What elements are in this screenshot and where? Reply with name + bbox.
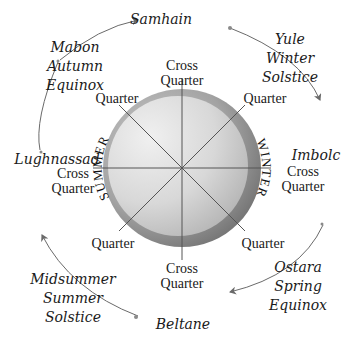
marker-top-line2: Quarter xyxy=(152,73,212,88)
inner-disk xyxy=(108,96,248,236)
yule-line2: Winter xyxy=(255,49,325,68)
festival-beltane: Beltane xyxy=(148,317,218,332)
marker-bottom-cross-quarter: Cross Quarter xyxy=(152,261,212,291)
yule-line3: Solstice xyxy=(255,68,325,87)
marker-top-right-quarter: Quarter xyxy=(230,91,300,106)
marker-bottom-right-line1: Quarter xyxy=(228,236,298,251)
festival-mabon: Mabon Autumn Equinox xyxy=(30,38,120,95)
festival-ostara: Ostara Spring Equinox xyxy=(258,258,338,315)
festival-samhain: Samhain xyxy=(121,12,201,27)
marker-top-line1: Cross xyxy=(152,58,212,73)
yule-name: Yule xyxy=(255,30,325,49)
marker-bottom-right-quarter: Quarter xyxy=(228,236,298,251)
marker-top-cross-quarter: Cross Quarter xyxy=(152,58,212,88)
marker-top-left-line1: Quarter xyxy=(82,91,152,106)
ostara-line2: Spring xyxy=(258,277,338,296)
ostara-name: Ostara xyxy=(258,258,338,277)
marker-bottom-line2: Quarter xyxy=(152,276,212,291)
mabon-name: Mabon xyxy=(30,38,120,57)
lughnassad-name: Lughnassad xyxy=(12,152,102,167)
marker-left-line1: Cross xyxy=(40,166,106,181)
midsummer-name: Midsummer xyxy=(18,270,128,289)
marker-top-left-quarter: Quarter xyxy=(82,91,152,106)
festival-imbolc: Imbolc xyxy=(286,148,346,163)
imbolc-name: Imbolc xyxy=(286,148,346,163)
festival-yule: Yule Winter Solstice xyxy=(255,30,325,87)
marker-bottom-left-line1: Quarter xyxy=(78,236,148,251)
midsummer-line2: Summer xyxy=(18,289,128,308)
marker-bottom-left-quarter: Quarter xyxy=(78,236,148,251)
midsummer-line3: Solstice xyxy=(18,308,128,327)
festival-midsummer: Midsummer Summer Solstice xyxy=(18,270,128,327)
mabon-line2: Autumn xyxy=(30,57,120,76)
wheel-of-year-diagram: SUMMER WINTER Samhain Yule Winter Solsti… xyxy=(0,0,346,343)
marker-left-line2: Quarter xyxy=(40,181,106,196)
marker-right-line1: Cross xyxy=(272,164,334,179)
ostara-line3: Equinox xyxy=(258,296,338,315)
marker-left-cross-quarter: Cross Quarter xyxy=(40,166,106,196)
festival-lughnassad: Lughnassad xyxy=(12,152,102,167)
marker-top-right-line1: Quarter xyxy=(230,91,300,106)
marker-right-line2: Quarter xyxy=(272,179,334,194)
samhain-name: Samhain xyxy=(121,12,201,27)
marker-right-cross-quarter: Cross Quarter xyxy=(272,164,334,194)
beltane-name: Beltane xyxy=(148,317,218,332)
marker-bottom-line1: Cross xyxy=(152,261,212,276)
